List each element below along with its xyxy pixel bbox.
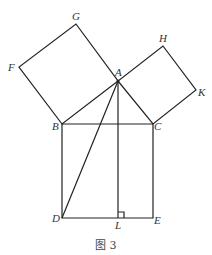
label-e: E <box>153 214 161 226</box>
square-abfg <box>19 24 118 124</box>
label-d: D <box>51 212 60 224</box>
figure-caption: 图 3 <box>95 239 117 252</box>
vertex-a-dot <box>117 80 120 83</box>
label-f: F <box>7 61 15 73</box>
label-c: C <box>154 120 162 132</box>
label-h: H <box>158 32 168 44</box>
label-g: G <box>72 10 80 22</box>
right-angle-mark <box>118 212 124 218</box>
label-l: L <box>114 219 121 231</box>
square-ackh <box>118 46 196 124</box>
pythagorean-proof-diagram: G F H K A B C D E L 图 3 <box>0 0 212 255</box>
label-a: A <box>114 66 122 78</box>
label-b: B <box>52 120 59 132</box>
square-bced <box>62 124 153 218</box>
line-ad <box>62 81 118 218</box>
label-k: K <box>197 86 206 98</box>
